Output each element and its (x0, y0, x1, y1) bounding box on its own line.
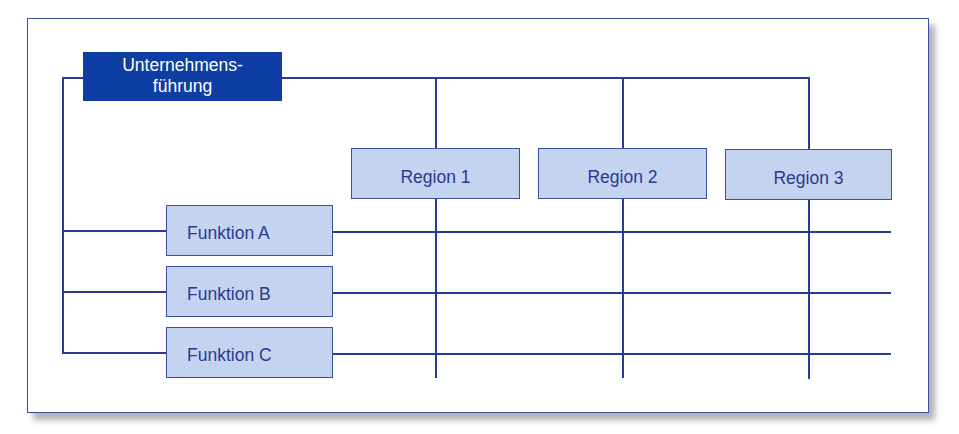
region-3-column-line (808, 77, 810, 379)
function-b-left-line (62, 291, 166, 293)
function-b-label: Funktion B (187, 284, 271, 305)
region-2-column-line (622, 77, 624, 378)
head-left-stub-line (62, 77, 83, 79)
function-b-row-line (333, 292, 891, 294)
function-c-label: Funktion C (187, 345, 272, 366)
management-label-line1: Unternehmens- (83, 55, 282, 76)
management-label-line2: führung (83, 76, 282, 97)
region-2-label: Region 2 (587, 167, 657, 188)
function-a-left-line (62, 230, 166, 232)
region-3-label: Region 3 (773, 168, 843, 189)
function-a-row-line (333, 231, 891, 233)
function-b-box: Funktion B (166, 266, 333, 317)
function-c-row-line (333, 353, 891, 355)
function-c-box: Funktion C (166, 327, 333, 378)
management-box: Unternehmens- führung (83, 52, 282, 101)
left-connector-line (62, 77, 64, 353)
function-a-box: Funktion A (166, 205, 333, 256)
region-1-column-line (435, 77, 437, 378)
function-c-left-line (62, 352, 166, 354)
function-a-label: Funktion A (187, 223, 270, 244)
region-1-label: Region 1 (400, 167, 470, 188)
region-2-box: Region 2 (538, 148, 707, 199)
region-1-box: Region 1 (351, 148, 520, 199)
region-3-box: Region 3 (725, 149, 892, 200)
top-connector-line (282, 77, 809, 79)
